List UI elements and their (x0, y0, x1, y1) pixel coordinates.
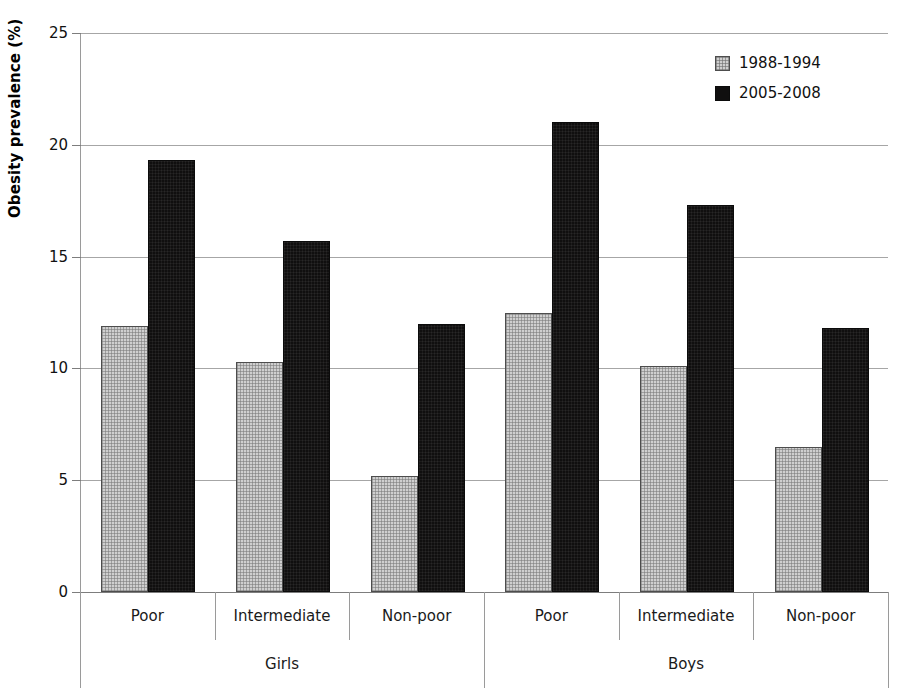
axis-separator (753, 592, 754, 640)
y-tick-label: 20 (49, 136, 68, 154)
bar (236, 362, 283, 592)
y-tick-label: 25 (49, 24, 68, 42)
axis-separator (80, 592, 81, 688)
y-tick-mark (72, 480, 81, 481)
category-label: Poor (80, 592, 215, 640)
y-tick-label: 5 (58, 471, 68, 489)
category-axis: PoorIntermediateNon-poorPoorIntermediate… (80, 592, 888, 688)
bar (371, 476, 418, 592)
plot-area: 0510152025 (80, 33, 888, 592)
group-label: Girls (80, 640, 484, 688)
y-tick-label: 10 (49, 359, 68, 377)
bar (687, 205, 734, 592)
legend-label: 2005-2008 (739, 84, 821, 102)
axis-separator (619, 592, 620, 640)
axis-separator (888, 592, 889, 688)
category-label: Non-poor (753, 592, 888, 640)
group-label: Boys (484, 640, 888, 688)
y-tick-mark (72, 145, 81, 146)
legend-swatch-icon (715, 56, 730, 71)
bar (822, 328, 869, 592)
bar (505, 313, 552, 593)
category-label: Intermediate (215, 592, 350, 640)
axis-separator (484, 592, 485, 688)
y-tick-mark (72, 368, 81, 369)
y-tick-mark (72, 257, 81, 258)
legend-swatch-icon (715, 86, 730, 101)
y-tick-label: 0 (58, 583, 68, 601)
axis-separator (215, 592, 216, 640)
bar (552, 122, 599, 592)
legend-entry: 2005-2008 (715, 78, 875, 108)
bar (283, 241, 330, 592)
bar (418, 324, 465, 592)
legend-label: 1988-1994 (739, 54, 821, 72)
bars-layer (81, 33, 888, 592)
y-tick-label: 15 (49, 248, 68, 266)
axis-separator (349, 592, 350, 640)
category-label: Intermediate (619, 592, 754, 640)
bar-chart: Obesity prevalence (%) 0510152025 PoorIn… (0, 0, 897, 688)
legend: 1988-19942005-2008 (713, 44, 877, 114)
y-axis-title: Obesity prevalence (%) (6, 0, 24, 218)
bar (148, 160, 195, 592)
category-label: Poor (484, 592, 619, 640)
y-tick-mark (72, 33, 81, 34)
bar (640, 366, 687, 592)
bar (101, 326, 148, 592)
legend-entry: 1988-1994 (715, 48, 875, 78)
bar (775, 447, 822, 592)
category-label: Non-poor (349, 592, 484, 640)
